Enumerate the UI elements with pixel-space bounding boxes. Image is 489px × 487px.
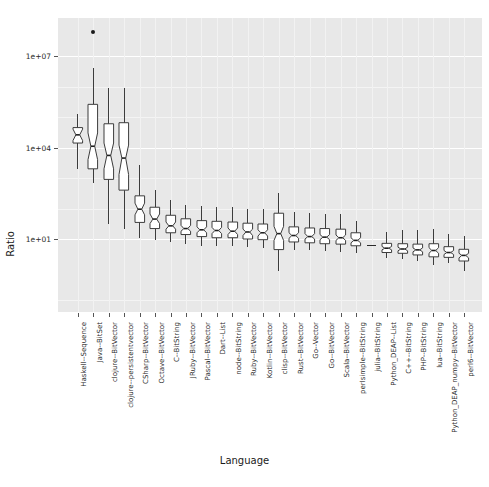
boxplot-box <box>289 18 299 312</box>
boxplot-notched-body <box>336 18 346 312</box>
boxplot-box <box>305 18 315 312</box>
x-axis-tick-label: Scala--BitVector <box>343 322 351 377</box>
boxplot-box <box>88 18 98 312</box>
x-axis-tick-label: clojure--BitVector <box>111 322 119 382</box>
x-axis-tick-mark <box>387 313 388 317</box>
boxplot-median-flat <box>367 245 377 247</box>
x-axis-tick-mark <box>248 313 249 317</box>
boxplot-notched-body <box>243 18 253 312</box>
x-axis-tick-label: perl6--BitVector <box>467 322 475 377</box>
boxplot-box <box>320 18 330 312</box>
x-axis-tick-mark <box>171 313 172 317</box>
boxplot-box <box>336 18 346 312</box>
boxplot-box <box>243 18 253 312</box>
x-axis-tick-mark <box>201 313 202 317</box>
boxplot-box <box>258 18 268 312</box>
boxplot-box <box>413 18 423 312</box>
x-axis-tick-label: Dart--List <box>219 322 227 355</box>
x-axis-tick-mark <box>217 313 218 317</box>
x-axis-tick-mark <box>356 313 357 317</box>
boxplot-box <box>382 18 392 312</box>
boxplot-notched-body <box>459 18 469 312</box>
x-axis-tick-mark <box>372 313 373 317</box>
boxplot-notched-body <box>305 18 315 312</box>
boxplot-chart: Ratio Language 1e+011e+041e+07Haskell--S… <box>0 0 489 487</box>
boxplot-notched-body <box>429 18 439 312</box>
boxplot-notched-body <box>289 18 299 312</box>
boxplot-box <box>444 18 454 312</box>
boxplot-box <box>398 18 408 312</box>
x-axis-tick-mark <box>124 313 125 317</box>
x-axis-tick-mark <box>155 313 156 317</box>
x-axis-tick-label: Python_DEAP--List <box>390 322 398 386</box>
y-axis-tick-mark <box>54 239 58 240</box>
x-axis-tick-label: Go--Vector <box>312 322 320 359</box>
boxplot-box <box>119 18 129 312</box>
boxplot-box <box>274 18 284 312</box>
x-axis-tick-label: perlsimple--BitString <box>359 322 367 394</box>
boxplot-notched-body <box>212 18 222 312</box>
boxplot-notched-body <box>228 18 238 312</box>
x-axis-tick-label: Go--BitVector <box>328 322 336 368</box>
boxplot-box <box>73 18 83 312</box>
boxplot-notched-body <box>258 18 268 312</box>
x-axis-tick-mark <box>263 313 264 317</box>
boxplot-notched-body <box>88 18 98 312</box>
boxplot-notched-body <box>73 18 83 312</box>
x-axis-tick-label: Python_DEAP_numpy--BitVector <box>451 322 459 433</box>
boxplot-box <box>459 18 469 312</box>
x-axis-tick-mark <box>325 313 326 317</box>
x-axis-tick-label: clisp--BitVector <box>281 322 289 374</box>
x-axis-tick-label: PHP--BitString <box>420 322 428 371</box>
boxplot-notched-body <box>444 18 454 312</box>
x-axis-tick-mark <box>449 313 450 317</box>
boxplot-notched-body <box>119 18 129 312</box>
x-axis-tick-mark <box>294 313 295 317</box>
x-axis-tick-label: julia--BitString <box>374 322 382 372</box>
x-axis-tick-mark <box>93 313 94 317</box>
x-axis-tick-label: Ruby--BitVector <box>250 322 258 376</box>
boxplot-notched-body <box>166 18 176 312</box>
boxplot-box <box>212 18 222 312</box>
boxplot-box <box>197 18 207 312</box>
boxplot-box <box>104 18 114 312</box>
x-axis-tick-mark <box>279 313 280 317</box>
x-axis-tick-mark <box>433 313 434 317</box>
x-axis-tick-label: Pascal--BitVector <box>204 322 212 381</box>
boxplot-notched-body <box>320 18 330 312</box>
x-axis-tick-mark <box>232 313 233 317</box>
y-axis-tick-label: 1e+07 <box>26 52 51 61</box>
boxplot-notched-body <box>135 18 145 312</box>
x-axis-tick-label: clojure--persistentvector <box>127 322 135 408</box>
x-axis-tick-mark <box>464 313 465 317</box>
x-axis-tick-label: Octave--BitVector <box>158 322 166 383</box>
x-axis-tick-mark <box>186 313 187 317</box>
x-axis-tick-label: Java--BitSet <box>96 322 104 363</box>
boxplot-box <box>367 18 377 312</box>
x-axis-tick-mark <box>78 313 79 317</box>
boxplot-notched-body <box>398 18 408 312</box>
x-axis-tick-label: node--BitString <box>235 322 243 375</box>
boxplot-box <box>150 18 160 312</box>
y-axis-title: Ratio <box>5 231 16 257</box>
boxplot-box <box>228 18 238 312</box>
boxplot-box <box>135 18 145 312</box>
y-axis-tick-label: 1e+01 <box>26 235 51 244</box>
x-axis-tick-label: lua--BitString <box>436 322 444 368</box>
boxplot-box <box>429 18 439 312</box>
x-axis-tick-mark <box>310 313 311 317</box>
boxplot-notched-body <box>274 18 284 312</box>
x-axis-tick-mark <box>341 313 342 317</box>
x-axis-tick-mark <box>418 313 419 317</box>
x-axis-tick-label: C++--BitString <box>405 322 413 374</box>
boxplot-notched-body <box>181 18 191 312</box>
plot-panel <box>58 18 482 312</box>
boxplot-box <box>351 18 361 312</box>
x-axis-title: Language <box>0 455 489 466</box>
y-axis-tick-mark <box>54 148 58 149</box>
boxplot-notched-body <box>104 18 114 312</box>
boxplot-notched-body <box>150 18 160 312</box>
x-axis-tick-label: CSharp--BitVector <box>142 322 150 384</box>
x-axis-tick-mark <box>109 313 110 317</box>
y-axis-tick-label: 1e+04 <box>26 143 51 152</box>
